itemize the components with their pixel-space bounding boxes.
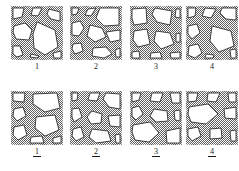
- micrograph-image-top-4: [186, 6, 238, 60]
- panel-row-top: 1: [0, 6, 239, 84]
- micrograph-image-bottom-4: [186, 91, 238, 145]
- panel-label-top-3: 3: [130, 62, 182, 72]
- panel-label-bottom-4-text: 4: [208, 147, 216, 157]
- panel-top-4[interactable]: 4: [186, 6, 238, 60]
- panel-top-1[interactable]: 1: [11, 6, 63, 60]
- panel-row-bottom: 1: [0, 91, 239, 169]
- panel-top-3[interactable]: 3: [130, 6, 182, 60]
- micrograph-image-bottom-1: [11, 91, 63, 145]
- panel-bottom-1[interactable]: 1: [11, 91, 63, 145]
- micrograph-image-bottom-3: [130, 91, 182, 145]
- panel-label-top-1: 1: [11, 62, 63, 72]
- panel-bottom-3[interactable]: 3: [130, 91, 182, 145]
- panel-label-bottom-3-text: 3: [152, 147, 160, 157]
- panel-top-2[interactable]: 2: [70, 6, 122, 60]
- micrograph-image-bottom-2: [70, 91, 122, 145]
- panel-label-bottom-1-text: 1: [33, 147, 41, 157]
- panel-label-bottom-2: 2: [70, 147, 122, 157]
- figure-panel-grid: 1: [0, 0, 239, 171]
- panel-label-top-4: 4: [186, 62, 238, 72]
- panel-bottom-4[interactable]: 4: [186, 91, 238, 145]
- micrograph-image-top-2: [70, 6, 122, 60]
- panel-bottom-2[interactable]: 2: [70, 91, 122, 145]
- micrograph-image-top-3: [130, 6, 182, 60]
- panel-label-top-2: 2: [70, 62, 122, 72]
- panel-label-bottom-2-text: 2: [92, 147, 100, 157]
- panel-label-bottom-1: 1: [11, 147, 63, 157]
- micrograph-image-top-1: [11, 6, 63, 60]
- panel-label-bottom-4: 4: [186, 147, 238, 157]
- panel-label-bottom-3: 3: [130, 147, 182, 157]
